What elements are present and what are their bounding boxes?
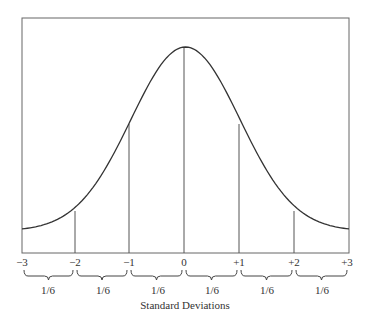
interval-label: 1/6 — [96, 284, 111, 296]
brace — [241, 270, 292, 280]
x-axis-label: Standard Deviations — [140, 299, 230, 311]
x-tick-label: −1 — [123, 256, 135, 268]
sd-lines — [75, 47, 294, 253]
x-tick-label: +1 — [233, 256, 245, 268]
brace — [24, 270, 73, 280]
bell-curve — [22, 47, 349, 229]
x-tick-label: 0 — [181, 256, 187, 268]
brace — [131, 270, 182, 280]
brace — [186, 270, 237, 280]
interval-label: 1/6 — [260, 284, 275, 296]
x-tick-label: −2 — [69, 256, 81, 268]
normal-curve-chart: −3 −2 −1 0 +1 +2 +3 1/6 1/6 1/6 1/6 1/6 … — [0, 0, 367, 323]
interval-labels: 1/6 1/6 1/6 1/6 1/6 1/6 — [41, 284, 330, 296]
interval-braces — [24, 270, 347, 280]
interval-label: 1/6 — [151, 284, 166, 296]
plot-frame — [22, 18, 349, 253]
brace — [77, 270, 127, 280]
interval-label: 1/6 — [41, 284, 56, 296]
x-tick-labels: −3 −2 −1 0 +1 +2 +3 — [16, 256, 353, 268]
x-tick-label: +3 — [341, 256, 353, 268]
interval-label: 1/6 — [205, 284, 220, 296]
x-tick-label: −3 — [16, 256, 28, 268]
interval-label: 1/6 — [315, 284, 330, 296]
x-tick-label: +2 — [288, 256, 300, 268]
brace — [296, 270, 347, 280]
